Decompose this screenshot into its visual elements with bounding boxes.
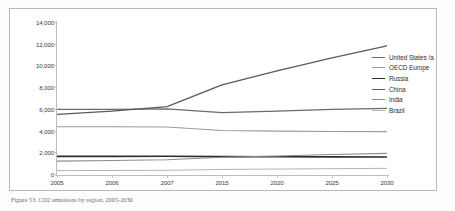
chart-frame: 02,0004,0006,0008,00010,00012,00014,000 … [9,8,437,191]
chart-legend: United States /aOECD EuropeRussiaChinaIn… [372,52,455,116]
legend-item[interactable]: United States /a [372,52,455,63]
x-axis-tick [277,175,278,178]
y-axis-tick-label: 14,000 [36,19,54,26]
y-axis-tick-label: 10,000 [36,62,54,69]
legend-label: United States /a [389,54,434,61]
figure-container: 02,0004,0006,0008,00010,00012,00014,000 … [0,0,455,211]
plot-area [57,22,387,174]
y-axis-tick-label: 12,000 [36,40,54,47]
y-axis-tick-label: 6,000 [39,105,54,112]
x-axis-tick-label: 2005 [50,179,63,186]
x-axis-tick [332,175,333,178]
legend-swatch-icon [372,57,385,58]
legend-label: OECD Europe [389,64,429,71]
legend-item[interactable]: Russia [372,73,455,84]
series-line [57,168,387,170]
x-axis-labels: 2005200620072015202020252030 [57,179,387,191]
legend-swatch-icon [372,78,385,79]
series-line [57,108,387,112]
x-axis-tick-label: 2007 [160,179,173,186]
legend-item[interactable]: China [372,84,455,95]
figure-caption: Figure 53. CO2 emissions by region, 2005… [11,196,441,203]
y-axis-tick-label: 2,000 [39,149,54,156]
y-axis-tick [53,152,56,153]
legend-swatch-icon [372,110,385,111]
x-axis-tick [112,175,113,178]
x-axis-tick-label: 2020 [270,179,283,186]
x-axis-tick [57,175,58,178]
y-axis-tick [53,131,56,132]
legend-label: Russia [389,75,408,82]
y-axis-tick-label: 8,000 [39,84,54,91]
legend-label: Brazil [389,107,405,114]
y-axis-tick [53,109,56,110]
legend-swatch-icon [372,99,385,100]
y-axis-tick [53,87,56,88]
series-line [57,127,387,132]
x-axis-tick [387,175,388,178]
legend-item[interactable]: India [372,94,455,105]
y-axis-labels: 02,0004,0006,0008,00010,00012,00014,000 [18,22,54,174]
x-axis-tick [222,175,223,178]
x-axis-tick-label: 2025 [325,179,338,186]
x-axis-line [56,175,389,176]
series-line [57,46,387,114]
x-axis-tick-label: 2015 [215,179,228,186]
x-axis-tick-label: 2030 [380,179,393,186]
legend-swatch-icon [372,89,385,90]
x-axis-tick [167,175,168,178]
x-axis-tick-label: 2006 [105,179,118,186]
legend-label: India [389,96,403,103]
legend-item[interactable]: OECD Europe [372,63,455,74]
legend-swatch-icon [372,67,385,68]
y-axis-tick-label: 4,000 [39,127,54,134]
legend-label: China [389,86,405,93]
y-axis-tick [53,44,56,45]
y-axis-tick [53,22,56,23]
y-axis-tick [53,65,56,66]
series-lines-group [57,22,387,174]
legend-item[interactable]: Brazil [372,105,455,116]
